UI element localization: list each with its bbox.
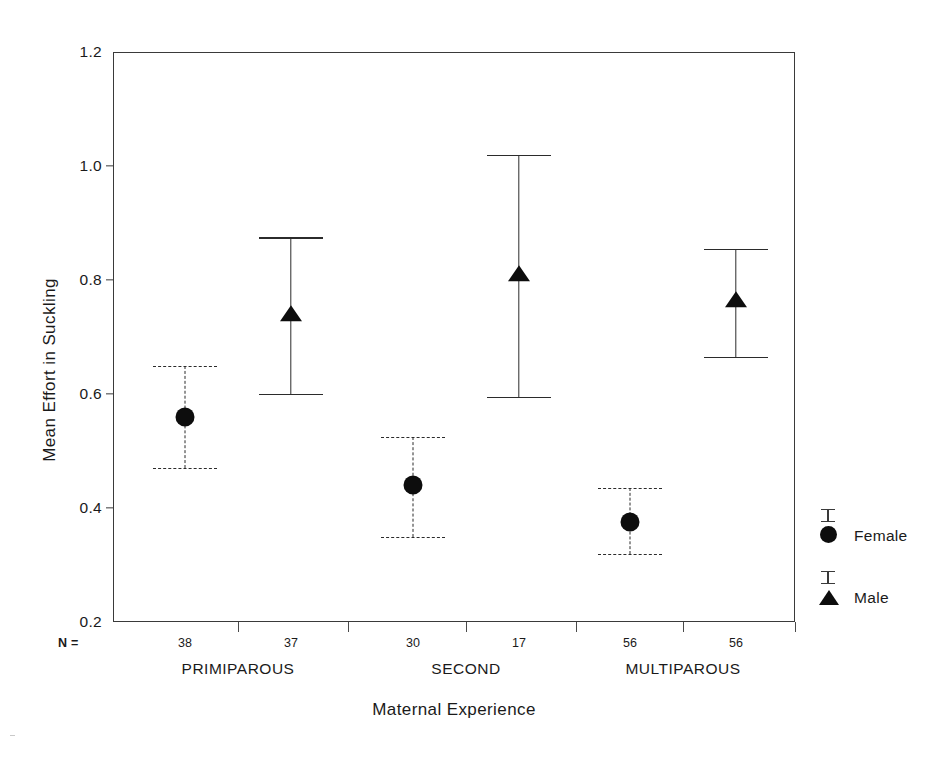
error-bar-cap — [598, 488, 662, 489]
y-axis-tick-mark — [106, 165, 113, 166]
y-axis-tick-mark — [106, 393, 113, 394]
error-bar-cap — [153, 366, 217, 367]
y-axis-tick-mark — [106, 279, 113, 280]
y-axis-tick-label: 0.4 — [56, 499, 102, 517]
error-bar-cap — [381, 437, 445, 438]
error-bar-cap — [381, 537, 445, 538]
y-axis-tick-mark — [106, 507, 113, 508]
error-bar-cap — [259, 394, 323, 395]
data-point-circle[interactable] — [621, 513, 640, 532]
data-point-triangle[interactable] — [508, 265, 530, 281]
error-bar-cap — [704, 249, 768, 250]
data-point-circle[interactable] — [176, 407, 195, 426]
x-axis-category-label: MULTIPAROUS — [625, 660, 740, 678]
x-axis-title: Maternal Experience — [113, 700, 795, 720]
y-axis-tick-label: 0.8 — [56, 271, 102, 289]
data-point-triangle[interactable] — [280, 305, 302, 321]
error-bar-cap — [598, 554, 662, 555]
triangle-marker-icon — [819, 590, 839, 605]
error-bar-cap — [487, 397, 551, 398]
n-value-label: 37 — [284, 636, 298, 650]
y-axis-tick-label: 1.0 — [56, 157, 102, 175]
x-axis-tick-mark — [683, 622, 684, 632]
n-value-label: 17 — [512, 636, 526, 650]
n-prefix-label: N = — [58, 636, 79, 650]
chart-canvas: 0.20.40.60.81.01.2 Mean Effort in Suckli… — [0, 0, 948, 773]
error-bar-icon — [820, 570, 836, 584]
error-bar-cap — [153, 468, 217, 469]
x-axis-tick-mark — [348, 622, 349, 632]
x-axis-tick-mark — [238, 622, 239, 632]
x-axis-tick-mark — [576, 622, 577, 632]
n-value-label: 56 — [729, 636, 743, 650]
scan-artifact — [10, 735, 15, 736]
y-axis-title: Mean Effort in Suckling — [40, 200, 60, 540]
legend: FemaleMale — [812, 508, 942, 632]
error-bar-cap — [704, 357, 768, 358]
error-bar-cap — [487, 155, 551, 156]
error-bar-icon — [820, 508, 836, 522]
x-axis-tick-mark — [795, 622, 796, 632]
n-value-label: 56 — [623, 636, 637, 650]
circle-marker-icon — [820, 526, 837, 543]
data-point-triangle[interactable] — [725, 291, 747, 307]
y-axis-tick-label: 0.6 — [56, 385, 102, 403]
error-bar-cap — [259, 237, 323, 238]
legend-item[interactable]: Male — [812, 570, 942, 632]
data-point-circle[interactable] — [404, 476, 423, 495]
legend-item[interactable]: Female — [812, 508, 942, 570]
legend-label: Male — [854, 589, 889, 607]
n-value-label: 30 — [406, 636, 420, 650]
y-axis: 0.20.40.60.81.01.2 — [0, 0, 948, 773]
x-axis-category-label: PRIMIPAROUS — [182, 660, 295, 678]
x-axis-category-label: SECOND — [431, 660, 500, 678]
y-axis-tick-label: 1.2 — [56, 43, 102, 61]
n-value-label: 38 — [178, 636, 192, 650]
legend-label: Female — [854, 527, 907, 545]
y-axis-tick-label: 0.2 — [56, 613, 102, 631]
x-axis-tick-mark — [466, 622, 467, 632]
